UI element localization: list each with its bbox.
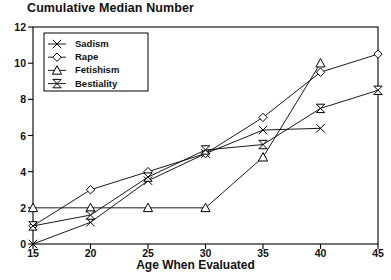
data-point-marker-diamond [259, 113, 267, 121]
x-axis-title: Age When Evaluated [0, 258, 391, 272]
y-axis-tick-label: 6 [2, 130, 26, 142]
y-axis-tick-label: 8 [2, 93, 26, 105]
data-point-marker-bowtie [374, 86, 382, 94]
marker-shape [316, 68, 324, 76]
plot-canvas [0, 0, 391, 280]
y-axis-tick-label: 10 [2, 57, 26, 69]
data-point-marker-diamond [53, 53, 61, 61]
data-point-marker-diamond [86, 186, 94, 194]
data-point-marker-bowtie [86, 211, 94, 219]
series-line-sadism [33, 128, 321, 244]
y-axis-tick-label: 4 [2, 166, 26, 178]
marker-shape [259, 113, 267, 121]
chart-figure: Cumulative Median Number 024681012152025… [0, 0, 391, 280]
marker-shape [316, 59, 325, 67]
legend-label-fetishism: Fetishism [75, 64, 119, 75]
marker-shape [374, 50, 382, 58]
legend-label-bestiality: Bestiality [75, 78, 117, 89]
marker-shape [86, 211, 94, 219]
data-point-marker-diamond [374, 50, 382, 58]
data-point-marker-triangle-up [258, 153, 267, 161]
marker-shape [258, 153, 267, 161]
data-point-marker-triangle-up [316, 59, 325, 67]
y-axis-tick-label: 12 [2, 21, 26, 33]
marker-shape [53, 53, 61, 61]
data-point-marker-diamond [316, 68, 324, 76]
data-point-marker-bowtie [316, 104, 324, 112]
legend-label-sadism: Sadism [75, 38, 109, 49]
marker-shape [316, 104, 324, 112]
y-axis-tick-label: 2 [2, 202, 26, 214]
legend-label-rape: Rape [75, 51, 98, 62]
marker-shape [374, 86, 382, 94]
marker-shape [86, 186, 94, 194]
